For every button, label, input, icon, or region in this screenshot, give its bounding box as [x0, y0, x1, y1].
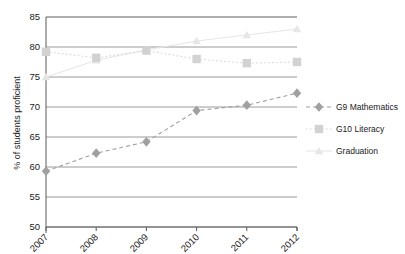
legend-label: G9 Mathematics — [336, 102, 398, 112]
series-graduation — [42, 25, 301, 81]
y-tick-label: 55 — [18, 192, 40, 202]
legend-swatch-diamond-icon — [306, 101, 332, 113]
data-point-marker — [293, 25, 301, 33]
series-g9-mathematics — [42, 88, 301, 176]
data-point-marker — [92, 54, 100, 62]
legend-item[interactable]: G9 Mathematics — [306, 101, 398, 113]
data-point-marker — [315, 125, 323, 133]
legend-item[interactable]: G10 Literacy — [306, 123, 384, 135]
y-tick-label: 85 — [18, 12, 40, 22]
data-point-marker — [243, 100, 251, 110]
chart-container: % of students proficient 858075706560555… — [0, 0, 405, 254]
data-point-marker — [142, 137, 150, 147]
series-line — [46, 29, 297, 77]
legend-label: G10 Literacy — [336, 124, 384, 134]
data-point-marker — [315, 102, 323, 112]
legend-item[interactable]: Graduation — [306, 145, 378, 157]
y-tick-label: 80 — [18, 42, 40, 52]
y-tick-label: 70 — [18, 102, 40, 112]
y-tick-label: 50 — [18, 222, 40, 232]
data-point-marker — [92, 148, 100, 158]
y-tick-label: 65 — [18, 132, 40, 142]
data-point-marker — [293, 58, 301, 66]
series-line — [46, 93, 297, 171]
series-line — [46, 51, 297, 64]
series-g10-literacy — [42, 46, 301, 67]
data-point-marker — [42, 48, 50, 56]
y-tick-label: 60 — [18, 162, 40, 172]
legend-label: Graduation — [336, 146, 378, 156]
legend-swatch-triangle-icon — [306, 145, 332, 157]
legend-swatch-square-icon — [306, 123, 332, 135]
data-point-marker — [293, 88, 301, 98]
data-point-marker — [192, 55, 200, 63]
y-tick-label: 75 — [18, 72, 40, 82]
data-point-marker — [243, 59, 251, 67]
data-point-marker — [42, 166, 50, 176]
data-point-marker — [142, 46, 150, 54]
